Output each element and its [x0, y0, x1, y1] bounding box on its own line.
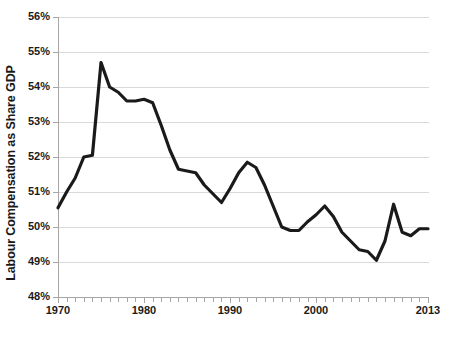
x-axis-tick	[325, 298, 326, 302]
gridline	[58, 122, 429, 123]
gridline	[58, 52, 429, 53]
x-axis-tick	[118, 298, 119, 302]
x-axis-tick	[273, 298, 274, 302]
gridline	[58, 227, 429, 228]
x-axis-tick	[101, 298, 102, 302]
x-axis-tick	[213, 298, 214, 302]
x-axis-tick	[308, 298, 309, 302]
x-axis-tick-label: 2000	[286, 304, 346, 316]
x-axis-tick	[290, 298, 291, 302]
x-axis-tick	[247, 298, 248, 302]
x-axis-tick	[359, 298, 360, 302]
x-axis-tick	[316, 298, 317, 303]
gridline	[58, 262, 429, 263]
x-axis-tick	[204, 298, 205, 302]
x-axis-tick	[67, 298, 68, 302]
x-axis-tick	[411, 298, 412, 302]
x-axis-tick	[153, 298, 154, 302]
x-axis-tick	[221, 298, 222, 302]
y-axis-tick-label: 52%	[8, 150, 50, 162]
x-axis-tick	[402, 298, 403, 302]
gridline	[58, 87, 429, 88]
chart-container: Labour Compensation as Share GDP 56%55%5…	[0, 0, 449, 346]
x-axis-tick	[196, 298, 197, 302]
x-axis-tick	[385, 298, 386, 302]
y-axis-tick-label: 49%	[8, 255, 50, 267]
y-axis-tick-label: 50%	[8, 220, 50, 232]
gridline	[58, 17, 429, 18]
x-axis-tick	[333, 298, 334, 302]
x-axis-tick-label: 1980	[114, 304, 174, 316]
x-axis-tick	[84, 298, 85, 302]
x-axis-tick	[127, 298, 128, 302]
x-axis-tick	[419, 298, 420, 302]
y-axis-tick-label: 53%	[8, 115, 50, 127]
x-axis-tick	[230, 298, 231, 303]
y-axis-tick-label: 48%	[8, 290, 50, 302]
x-axis-tick	[256, 298, 257, 302]
y-axis-tick-label: 56%	[8, 10, 50, 22]
x-axis-tick	[144, 298, 145, 303]
x-axis-tick	[58, 298, 59, 303]
x-axis-tick	[239, 298, 240, 302]
x-axis-tick	[376, 298, 377, 302]
x-axis-tick	[282, 298, 283, 302]
y-axis-tick-label: 55%	[8, 45, 50, 57]
y-axis-tick-label: 51%	[8, 185, 50, 197]
x-axis-tick	[265, 298, 266, 302]
x-axis-tick	[394, 298, 395, 302]
x-axis-tick	[299, 298, 300, 302]
x-axis-tick	[342, 298, 343, 302]
x-axis-tick-label: 1990	[200, 304, 260, 316]
y-axis-tick-label: 54%	[8, 80, 50, 92]
gridline	[58, 192, 429, 193]
x-axis-tick	[351, 298, 352, 302]
x-axis-tick	[428, 298, 429, 303]
gridline	[58, 157, 429, 158]
x-axis-tick	[75, 298, 76, 302]
x-axis-tick	[135, 298, 136, 302]
series-labour-share-line	[58, 63, 428, 261]
x-axis-tick	[170, 298, 171, 302]
x-axis-tick	[161, 298, 162, 302]
x-axis-tick	[92, 298, 93, 302]
x-axis-tick-label: 1970	[28, 304, 88, 316]
x-axis-tick-label: 2013	[398, 304, 449, 316]
x-axis-tick	[110, 298, 111, 302]
x-axis-tick	[178, 298, 179, 302]
x-axis-tick	[368, 298, 369, 302]
x-axis-tick	[187, 298, 188, 302]
x-axis-line	[58, 297, 429, 298]
y-axis-line	[58, 17, 59, 298]
